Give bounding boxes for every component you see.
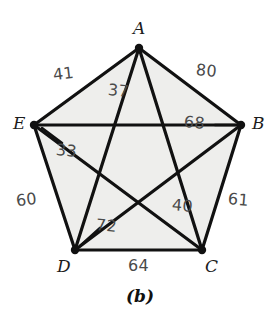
vertex-label-E: E <box>13 115 25 132</box>
weight-label-E-C: 33 <box>55 142 77 160</box>
vertex-dot-A <box>135 44 143 52</box>
weight-label-D-E: 60 <box>15 191 38 209</box>
weight-label-A-B: 80 <box>195 62 217 80</box>
weight-label-D-B: 72 <box>95 217 117 235</box>
vertex-dot-B <box>237 121 245 129</box>
vertex-dot-E <box>30 121 38 129</box>
weight-label-A-E: 41 <box>52 65 75 83</box>
weight-label-C-D: 64 <box>128 258 149 274</box>
weight-label-A-D: 37 <box>107 82 129 100</box>
vertex-dot-C <box>198 246 206 254</box>
weighted-graph-figure: A B C D E 41 80 61 64 60 37 40 68 33 72 … <box>0 0 280 318</box>
vertex-dot-D <box>71 246 79 254</box>
vertex-label-B: B <box>252 115 265 132</box>
weight-label-B-C: 61 <box>227 191 249 209</box>
figure-caption: (b) <box>0 286 280 306</box>
weight-label-A-C: 40 <box>171 197 193 215</box>
weight-label-E-B: 68 <box>183 114 205 132</box>
vertex-label-C: C <box>205 258 218 275</box>
vertex-label-D: D <box>57 258 71 275</box>
vertex-label-A: A <box>133 20 145 37</box>
